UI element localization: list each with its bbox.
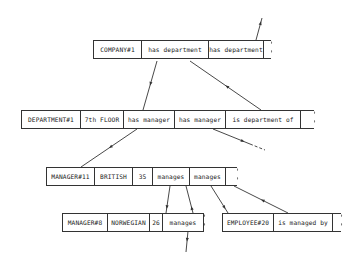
record-field: is managed by bbox=[274, 214, 333, 231]
record-field: NORWEGIAN bbox=[108, 214, 150, 231]
record-continuation bbox=[226, 168, 237, 185]
record-field: COMPANY#1 bbox=[94, 41, 142, 58]
record-manager11: MANAGER#11BRITISH35managesmanages bbox=[46, 167, 237, 186]
record-field: MANAGER#8 bbox=[63, 214, 108, 231]
record-field: manages bbox=[153, 168, 190, 185]
arrowhead-icon bbox=[109, 145, 113, 148]
record-manager8: MANAGER#8NORWEGIAN26manages bbox=[62, 213, 204, 232]
arrowhead-icon bbox=[240, 139, 244, 142]
record-department: DEPARTMENT#17th FLOORhas managerhas mana… bbox=[21, 110, 314, 129]
record-field: 7th FLOOR bbox=[81, 111, 124, 128]
record-field: manages bbox=[163, 214, 204, 231]
record-field: EMPLOYEE#20 bbox=[223, 214, 274, 231]
record-field: has manager bbox=[175, 111, 226, 128]
dashed-continuation bbox=[250, 144, 265, 150]
data-structure-diagram: COMPANY#1has departmenthas departmentDEP… bbox=[0, 0, 362, 266]
arrowhead-icon bbox=[150, 82, 153, 86]
record-field: has manager bbox=[124, 111, 175, 128]
record-field: has department bbox=[209, 41, 264, 58]
arrowhead-icon bbox=[226, 86, 230, 89]
record-field: is department of bbox=[226, 111, 301, 128]
record-field: MANAGER#11 bbox=[47, 168, 95, 185]
record-field: DEPARTMENT#1 bbox=[22, 111, 81, 128]
record-field: 35 bbox=[133, 168, 153, 185]
record-company: COMPANY#1has departmenthas department bbox=[93, 40, 271, 59]
record-field: 26 bbox=[150, 214, 163, 231]
record-employee20: EMPLOYEE#20is managed by bbox=[222, 213, 341, 232]
record-field: manages bbox=[190, 168, 226, 185]
record-continuation bbox=[333, 214, 341, 231]
record-field: BRITISH bbox=[95, 168, 133, 185]
record-field: has department bbox=[142, 41, 209, 58]
record-continuation bbox=[264, 41, 271, 58]
record-continuation bbox=[301, 111, 314, 128]
